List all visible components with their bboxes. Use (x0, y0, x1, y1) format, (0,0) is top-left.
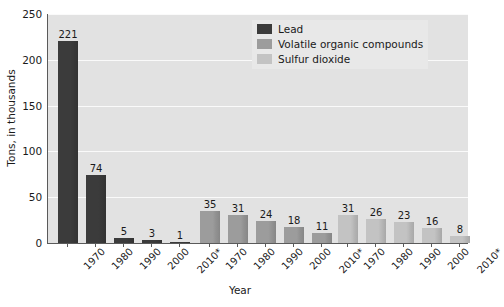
bar-value-label: 5 (121, 226, 127, 237)
y-axis-tick-label: 250 (2, 8, 42, 20)
bar-value-label: 11 (316, 221, 329, 232)
legend-swatch (257, 54, 272, 64)
x-axis-tick-label: 1980 (251, 246, 277, 272)
chart-legend: LeadVolatile organic compoundsSulfur dio… (252, 20, 428, 69)
gridline (48, 151, 468, 152)
legend-swatch (257, 39, 272, 49)
bar: 3 (142, 240, 162, 243)
x-axis-tick-label: 2010* (475, 246, 504, 275)
x-axis-tick-mark (403, 243, 404, 247)
legend-swatch (257, 24, 272, 34)
bar: 74 (86, 175, 106, 243)
bar: 24 (256, 221, 276, 243)
x-axis-tick-mark (375, 243, 376, 247)
x-axis-tick-label: 2000 (165, 246, 191, 272)
bar-value-label: 221 (58, 29, 77, 40)
bar-value-label: 3 (149, 228, 155, 239)
bar-value-label: 35 (204, 199, 217, 210)
x-axis-tick-mark (209, 243, 210, 247)
legend-item: Sulfur dioxide (257, 53, 423, 65)
y-axis-tick-label: 100 (2, 145, 42, 157)
bar: 31 (338, 215, 358, 243)
bar: 35 (200, 211, 220, 243)
x-axis-tick-label: 2010* (337, 246, 366, 275)
x-axis-tick-mark (431, 243, 432, 247)
bar: 18 (284, 227, 304, 243)
x-axis-tick-label: 1980 (109, 246, 135, 272)
x-axis-tick-mark (95, 243, 96, 247)
bar: 221 (58, 41, 78, 243)
gridline (48, 106, 468, 107)
x-axis-tick-label: 2010* (195, 246, 224, 275)
bar-value-label: 31 (232, 203, 245, 214)
bar: 5 (114, 238, 134, 243)
x-axis-tick-mark (459, 243, 460, 247)
bar-value-label: 31 (342, 203, 355, 214)
bar-value-label: 23 (398, 210, 411, 221)
bar: 23 (394, 222, 414, 243)
bar-value-label: 24 (260, 209, 273, 220)
bar-value-label: 18 (288, 215, 301, 226)
x-axis-tick-label: 1970 (223, 246, 249, 272)
x-axis-tick-mark (123, 243, 124, 247)
x-axis-title: Year (0, 284, 480, 296)
x-axis-tick-label: 1990 (137, 246, 163, 272)
x-axis-tick-label: 1980 (389, 246, 415, 272)
x-axis-tick-mark (179, 243, 180, 247)
y-axis-tick-label: 50 (2, 191, 42, 203)
x-axis-tick-mark (265, 243, 266, 247)
legend-item: Volatile organic compounds (257, 38, 423, 50)
legend-label: Lead (278, 23, 303, 35)
x-axis-tick-mark (293, 243, 294, 247)
x-axis-tick-label: 1990 (417, 246, 443, 272)
x-axis-tick-mark (151, 243, 152, 247)
legend-label: Volatile organic compounds (278, 38, 423, 50)
x-axis-tick-mark (67, 243, 68, 247)
gridline (48, 197, 468, 198)
x-axis-tick-label: 1990 (279, 246, 305, 272)
x-axis-tick-label: 1970 (81, 246, 107, 272)
bar-value-label: 8 (457, 224, 463, 235)
bar: 1 (170, 242, 190, 244)
bar: 26 (366, 219, 386, 243)
legend-label: Sulfur dioxide (278, 53, 350, 65)
bar-value-label: 74 (90, 163, 103, 174)
legend-item: Lead (257, 23, 423, 35)
y-axis-tick-label: 150 (2, 100, 42, 112)
x-axis-tick-mark (347, 243, 348, 247)
bar: 8 (450, 236, 470, 243)
x-axis-tick-label: 2000 (445, 246, 471, 272)
bar-value-label: 1 (177, 230, 183, 241)
x-axis-tick-label: 2000 (307, 246, 333, 272)
y-axis-tick-label: 200 (2, 54, 42, 66)
gridline (48, 14, 468, 15)
bar: 16 (422, 228, 442, 243)
x-axis-tick-mark (321, 243, 322, 247)
bar-value-label: 16 (426, 216, 439, 227)
y-axis-tick-labels: 050100150200250 (0, 14, 42, 243)
bar: 31 (228, 215, 248, 243)
y-axis-tick-label: 0 (2, 237, 42, 249)
bar-value-label: 26 (370, 207, 383, 218)
x-axis-tick-mark (237, 243, 238, 247)
bar: 11 (312, 233, 332, 243)
x-axis-tick-label: 1970 (361, 246, 387, 272)
